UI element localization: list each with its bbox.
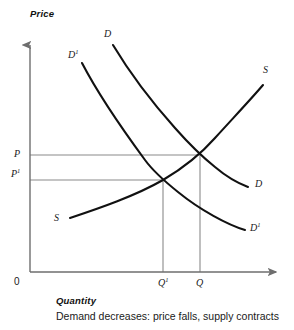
tick-label-quantity-initial-text: Q (196, 277, 203, 288)
curve-label-supply-left: S (54, 212, 59, 223)
supply-demand-figure: Price Quantity 0 P P1 Q1 Q D D1 S D D1 S… (0, 0, 294, 330)
figure-caption: Demand decreases: price falls, supply co… (56, 310, 294, 323)
y-axis-title: Price (30, 8, 54, 19)
x-axis-title: Quantity (56, 295, 96, 306)
curve-label-demand-right: D (255, 178, 262, 189)
plot-canvas (0, 0, 294, 330)
curve-label-supply-left-text: S (54, 212, 59, 223)
tick-label-price-initial-text: P (14, 148, 20, 159)
curve-label-demand-shifted-right: D1 (250, 222, 260, 233)
tick-label-quantity-new: Q1 (158, 277, 168, 288)
tick-label-quantity-initial: Q (196, 277, 203, 288)
supply-curve (70, 85, 263, 218)
demand-curve-initial (113, 45, 248, 187)
tick-label-price-new: P1 (11, 168, 20, 179)
origin-label: 0 (14, 276, 20, 287)
tick-label-price-initial: P (14, 148, 20, 159)
curve-label-demand-shifted-right-superscript: 1 (257, 221, 260, 228)
curve-label-demand-shifted-top: D1 (68, 49, 78, 60)
curve-label-supply-right-text: S (263, 64, 268, 75)
curve-label-demand-top-text: D (104, 28, 111, 39)
tick-label-quantity-new-superscript: 1 (165, 276, 168, 283)
curve-label-demand-right-text: D (255, 178, 262, 189)
curve-label-demand-top: D (104, 28, 111, 39)
curve-label-demand-shifted-top-superscript: 1 (75, 48, 78, 55)
tick-label-price-new-superscript: 1 (17, 167, 20, 174)
curve-label-supply-right: S (263, 64, 268, 75)
